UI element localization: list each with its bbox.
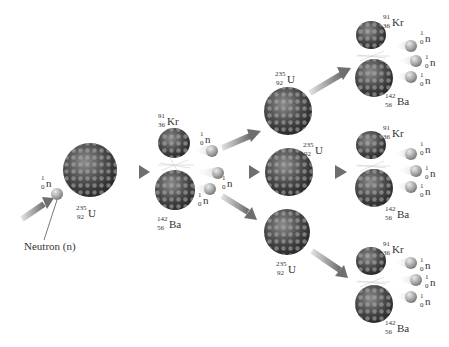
- neutron-label: 10n: [420, 144, 431, 155]
- incoming-arrow-icon: [22, 197, 54, 219]
- uranium-label: 23592U: [276, 264, 296, 275]
- neutron-label: 10n: [425, 277, 436, 288]
- neutron-label: 10n: [425, 168, 436, 179]
- released-neutrons: [190, 145, 224, 195]
- fission-burst-icon: [158, 158, 194, 172]
- neutron-label: 10n: [222, 178, 233, 189]
- neutron-label: 10n: [41, 178, 52, 189]
- neutron-label: 10n: [200, 134, 211, 145]
- uranium-label: 23592U: [303, 145, 323, 156]
- arrow-icon: [117, 165, 150, 179]
- uranium-nucleus-icon: [264, 209, 310, 255]
- arrow-icon: [310, 67, 351, 278]
- fission-diagram: 10n Neutron (n) 23592U 9136Kr 14256Ba 10…: [0, 0, 449, 347]
- uranium-label: 23592U: [76, 208, 96, 219]
- krypton-label: 9136Kr: [383, 17, 404, 28]
- barium-label: 14256Ba: [385, 209, 409, 220]
- neutron-label: 10n: [420, 33, 431, 44]
- fission-products-top: [355, 21, 422, 97]
- neutron-label: 10n: [198, 195, 209, 206]
- barium-nucleus-icon: [155, 170, 195, 210]
- krypton-label: 9136Kr: [383, 244, 404, 255]
- neutron-icon: [51, 188, 63, 200]
- krypton-label: 9136Kr: [158, 116, 179, 127]
- uranium-label: 23592U: [275, 74, 295, 85]
- barium-label: 14256Ba: [385, 323, 409, 334]
- neutron-label: 10n: [425, 57, 436, 68]
- fission-products-middle: [355, 131, 422, 207]
- neutron-label: 10n: [420, 260, 431, 271]
- uranium-nucleus-icon: [63, 143, 117, 197]
- neutron-caption: Neutron (n): [24, 241, 76, 252]
- neutron-label: 10n: [420, 186, 431, 197]
- krypton-nucleus-icon: [158, 128, 190, 158]
- arrow-icon: [222, 129, 261, 220]
- barium-label: 14256Ba: [385, 96, 409, 107]
- fission-products-bottom: [355, 247, 422, 323]
- uranium-nucleus-icon: [264, 87, 312, 135]
- neutron-label: 10n: [420, 75, 431, 86]
- krypton-label: 9136Kr: [383, 128, 404, 139]
- neutron-label: 10n: [420, 296, 431, 307]
- barium-label: 14256Ba: [157, 219, 181, 230]
